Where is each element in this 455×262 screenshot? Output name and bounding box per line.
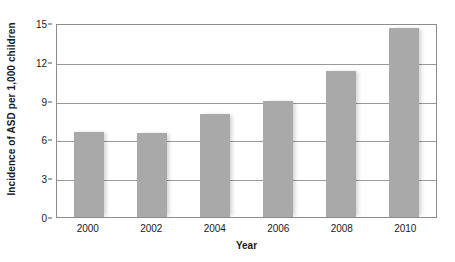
x-tick-label: 2006 — [247, 221, 311, 237]
y-axis-title: Incidence of ASD per 1,000 children — [0, 0, 22, 240]
y-tick-mark — [48, 218, 52, 219]
y-tick-label: 9 — [41, 96, 47, 107]
bars-group — [57, 25, 436, 217]
y-tick-mark — [48, 24, 52, 25]
bar-2000 — [74, 132, 104, 217]
bar-2008 — [326, 71, 356, 217]
y-tick-label: 0 — [41, 213, 47, 224]
y-tick-mark — [48, 101, 52, 102]
plot-area — [56, 24, 437, 218]
bar-slot — [120, 25, 183, 217]
bar-slot — [57, 25, 120, 217]
bar-2004 — [200, 114, 230, 217]
y-axis-tick-labels: 03691215 — [24, 24, 52, 218]
y-tick-label: 15 — [36, 19, 47, 30]
bar-chart-figure: Incidence of ASD per 1,000 children 0369… — [0, 0, 455, 262]
bar-slot — [373, 25, 436, 217]
x-tick-label: 2000 — [56, 221, 120, 237]
bar-2002 — [137, 133, 167, 217]
bar-slot — [247, 25, 310, 217]
y-tick-label: 6 — [41, 135, 47, 146]
y-tick-mark — [48, 62, 52, 63]
x-tick-label: 2008 — [310, 221, 374, 237]
x-axis-tick-labels: 200020022004200620082010 — [56, 221, 437, 237]
y-tick-mark — [48, 179, 52, 180]
x-tick-label: 2002 — [120, 221, 184, 237]
bar-slot — [183, 25, 246, 217]
x-axis-title: Year — [56, 240, 437, 251]
y-tick-mark — [48, 140, 52, 141]
bar-2010 — [389, 28, 419, 217]
bar-slot — [310, 25, 373, 217]
x-tick-label: 2010 — [374, 221, 438, 237]
bar-2006 — [263, 101, 293, 217]
y-tick-label: 3 — [41, 174, 47, 185]
x-tick-label: 2004 — [183, 221, 247, 237]
y-tick-label: 12 — [36, 57, 47, 68]
